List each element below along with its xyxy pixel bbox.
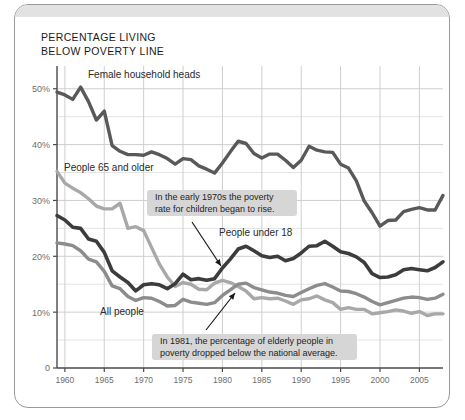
x-tick-label: 2005 xyxy=(410,375,429,385)
x-tick-label: 1985 xyxy=(252,375,271,385)
x-axis-tick-labels: 1960196519701975198019851990199520002005 xyxy=(55,368,429,385)
y-tick-label: 20% xyxy=(32,252,50,262)
x-tick-label: 1995 xyxy=(331,375,350,385)
grid-vertical-lines xyxy=(65,66,419,368)
x-tick-label: 2000 xyxy=(371,375,390,385)
x-tick-label: 1980 xyxy=(213,375,232,385)
series-label-1: People 65 and older xyxy=(64,162,154,173)
x-tick-label: 1970 xyxy=(134,375,153,385)
x-tick-label: 1990 xyxy=(292,375,311,385)
y-axis-tick-labels: 50%40%30%20%10%0 xyxy=(32,84,57,373)
y-tick-label: 30% xyxy=(32,196,50,206)
y-tick-label: 50% xyxy=(32,84,50,94)
series-label-3: All people xyxy=(100,306,144,317)
x-tick-label: 1960 xyxy=(55,375,74,385)
x-tick-label: 1975 xyxy=(174,375,193,385)
y-tick-label: 10% xyxy=(32,308,50,318)
annotation-group: In the early 1970s the povertyrate for c… xyxy=(147,190,357,360)
series-label-2: People under 18 xyxy=(219,227,293,238)
annotation-arrow-head-0 xyxy=(215,259,221,266)
annotation-text-0: In the early 1970s the povertyrate for c… xyxy=(155,192,275,214)
y-tick-label: 40% xyxy=(32,140,50,150)
poverty-line-chart: 50%40%30%20%10%0 19601965197019751980198… xyxy=(0,0,465,420)
series-label-0: Female household heads xyxy=(88,69,200,80)
y-tick-label: 0 xyxy=(45,363,50,373)
annotation-text-1: In 1981, the percentage of elderly peopl… xyxy=(160,336,338,358)
x-tick-label: 1965 xyxy=(95,375,114,385)
axis-lines xyxy=(57,66,443,368)
chart-plot-area: 50%40%30%20%10%0 19601965197019751980198… xyxy=(0,0,465,420)
